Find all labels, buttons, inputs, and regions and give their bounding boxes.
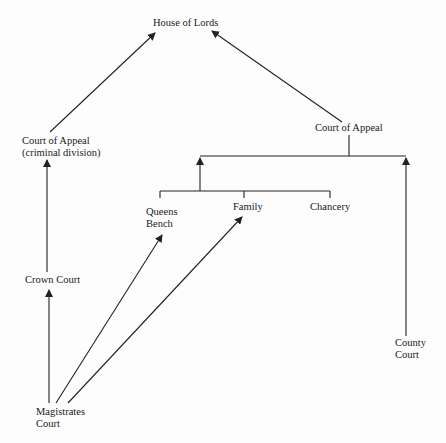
node-label-line2: Court bbox=[395, 349, 426, 361]
node-label-line2: (criminal division) bbox=[22, 147, 100, 159]
node-label-line1: Queens bbox=[146, 206, 178, 218]
node-label-line2: Bench bbox=[146, 218, 178, 230]
node-house-of-lords: House of Lords bbox=[153, 17, 218, 29]
arrow-criminal-appeal-to-lords bbox=[50, 33, 155, 132]
node-label-line1: Magistrates bbox=[36, 406, 85, 418]
node-label-line1: County bbox=[395, 337, 426, 349]
node-label-line2: Court bbox=[36, 418, 85, 430]
node-chancery: Chancery bbox=[310, 201, 350, 213]
node-court-of-appeal-criminal: Court of Appeal (criminal division) bbox=[22, 135, 100, 159]
node-family: Family bbox=[233, 201, 263, 213]
arrow-civil-appeal-to-lords bbox=[212, 31, 342, 122]
court-hierarchy-diagram: House of Lords Court of Appeal (criminal… bbox=[0, 0, 446, 443]
node-crown-court: Crown Court bbox=[25, 274, 80, 286]
node-queens-bench: Queens Bench bbox=[146, 206, 178, 230]
node-county-court: County Court bbox=[395, 337, 426, 361]
arrow-magistrates-to-family bbox=[68, 217, 242, 403]
node-court-of-appeal-civil: Court of Appeal bbox=[315, 122, 383, 134]
node-magistrates-court: Magistrates Court bbox=[36, 406, 85, 430]
connector-lines bbox=[0, 0, 446, 443]
node-label-line1: Court of Appeal bbox=[22, 135, 100, 147]
